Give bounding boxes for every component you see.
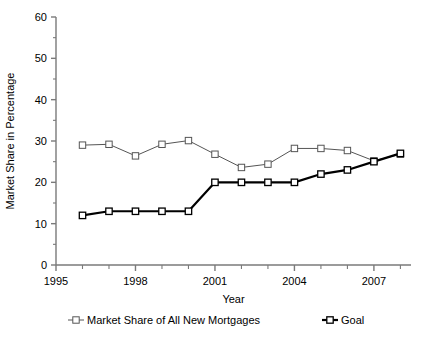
label-layer: 010203040506019951998200120042007YearMar…: [4, 11, 386, 305]
data-point-marker: [397, 150, 403, 156]
data-point-marker: [291, 179, 297, 185]
x-tick-label: 1995: [44, 275, 68, 287]
legend-layer: Market Share of All New MortgagesGoal: [68, 314, 364, 326]
legend-marker-market-share: [73, 317, 79, 323]
series-layer: [79, 137, 403, 218]
data-point-marker: [132, 153, 138, 159]
data-point-marker: [106, 141, 112, 147]
x-tick-label: 2001: [203, 275, 227, 287]
data-point-marker: [132, 208, 138, 214]
data-point-marker: [291, 145, 297, 151]
data-point-marker: [185, 137, 191, 143]
data-point-marker: [106, 208, 112, 214]
data-point-marker: [371, 158, 377, 164]
y-tick-label: 60: [35, 11, 47, 23]
data-point-marker: [344, 167, 350, 173]
y-tick-label: 0: [41, 259, 47, 271]
y-tick-label: 30: [35, 135, 47, 147]
data-point-marker: [318, 171, 324, 177]
x-tick-label: 2004: [282, 275, 306, 287]
x-axis-title: Year: [222, 293, 245, 305]
x-tick-label: 1998: [123, 275, 147, 287]
line-chart: 010203040506019951998200120042007YearMar…: [0, 0, 421, 340]
data-point-marker: [265, 179, 271, 185]
data-point-marker: [318, 145, 324, 151]
data-point-marker: [212, 179, 218, 185]
data-point-marker: [159, 208, 165, 214]
y-tick-label: 10: [35, 218, 47, 230]
y-tick-label: 40: [35, 94, 47, 106]
data-point-marker: [265, 161, 271, 167]
y-axis-title: Market Share in Percentage: [4, 73, 16, 210]
data-point-marker: [238, 164, 244, 170]
data-point-marker: [212, 151, 218, 157]
legend-label-goal: Goal: [341, 314, 364, 326]
data-point-marker: [344, 147, 350, 153]
data-point-marker: [185, 208, 191, 214]
series-line: [82, 141, 400, 168]
data-point-marker: [238, 179, 244, 185]
series-market-share: [79, 137, 403, 170]
y-tick-label: 20: [35, 176, 47, 188]
x-tick-label: 2007: [362, 275, 386, 287]
chart-container: 010203040506019951998200120042007YearMar…: [0, 0, 421, 340]
y-tick-label: 50: [35, 52, 47, 64]
data-point-marker: [79, 142, 85, 148]
legend-label-market-share: Market Share of All New Mortgages: [87, 314, 261, 326]
series-goal: [79, 150, 403, 218]
data-point-marker: [159, 141, 165, 147]
data-point-marker: [79, 212, 85, 218]
legend-marker-goal: [327, 317, 333, 323]
